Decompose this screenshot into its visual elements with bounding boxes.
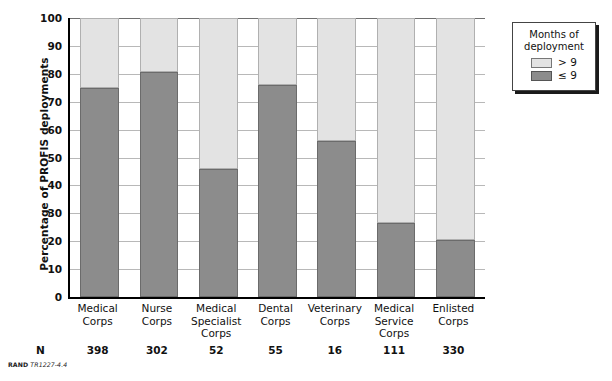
x-label-line: Corps <box>301 315 368 328</box>
x-label-line: Service <box>360 315 427 328</box>
x-label-veterinary-corps: VeterinaryCorps <box>301 302 368 327</box>
bar-segment-gt9 <box>258 18 297 85</box>
n-value-enlisted-corps: 330 <box>424 344 483 356</box>
x-label-line: Veterinary <box>301 302 368 315</box>
x-label-line: Medical <box>360 302 427 315</box>
bar-medical-specialist-corps[interactable] <box>199 18 238 297</box>
light-swatch-icon <box>531 58 552 68</box>
n-row-label: N <box>36 344 45 356</box>
x-label-line: Medical <box>64 302 131 315</box>
x-label-medical-specialist-corps: MedicalSpecialistCorps <box>183 302 250 340</box>
bar-segment-le9 <box>199 169 238 297</box>
y-tick-100: 100 <box>28 13 62 24</box>
x-label-line: Nurse <box>123 302 190 315</box>
x-label-line: Corps <box>123 315 190 328</box>
x-label-dental-corps: DentalCorps <box>242 302 309 327</box>
n-value-nurse-corps: 302 <box>127 344 186 356</box>
x-label-line: Corps <box>242 315 309 328</box>
bar-segment-le9 <box>317 141 356 297</box>
n-value-dental-corps: 55 <box>246 344 305 356</box>
bar-dental-corps[interactable] <box>258 18 297 297</box>
bar-nurse-corps[interactable] <box>140 18 179 297</box>
n-value-medical-specialist-corps: 52 <box>187 344 246 356</box>
bar-segment-gt9 <box>377 18 416 223</box>
legend-title-line-2: deployment <box>517 41 591 53</box>
legend-item-le9-label: ≤ 9 <box>558 70 577 81</box>
chart-figure: Percentage of PROFIS deployments 1009080… <box>0 0 612 381</box>
bar-segment-gt9 <box>80 18 119 88</box>
dark-swatch-icon <box>531 71 552 81</box>
x-label-line: Corps <box>64 315 131 328</box>
x-label-line: Dental <box>242 302 309 315</box>
x-label-line: Corps <box>360 327 427 340</box>
bar-medical-corps[interactable] <box>80 18 119 297</box>
legend-item-gt9-label: > 9 <box>558 57 577 68</box>
bar-enlisted-corps[interactable] <box>436 18 475 297</box>
source-document-id: TR1227-4.4 <box>30 361 67 368</box>
x-label-line: Medical <box>183 302 250 315</box>
bar-veterinary-corps[interactable] <box>317 18 356 297</box>
x-label-nurse-corps: NurseCorps <box>123 302 190 327</box>
bar-medical-service-corps[interactable] <box>377 18 416 297</box>
x-label-medical-corps: MedicalCorps <box>64 302 131 327</box>
bar-segment-le9 <box>80 88 119 297</box>
x-label-line: Enlisted <box>420 302 487 315</box>
n-value-medical-corps: 398 <box>68 344 127 356</box>
x-label-medical-service-corps: MedicalServiceCorps <box>360 302 427 340</box>
x-label-line: Corps <box>420 315 487 328</box>
x-label-enlisted-corps: EnlistedCorps <box>420 302 487 327</box>
bar-series-container <box>70 18 485 297</box>
bar-segment-le9 <box>258 85 297 297</box>
bar-segment-le9 <box>436 240 475 297</box>
source-note: RAND TR1227-4.4 <box>8 361 67 368</box>
legend-item-le9: ≤ 9 <box>517 70 591 81</box>
source-brand: RAND <box>8 361 28 368</box>
legend-title: Months of deployment <box>517 29 591 53</box>
n-value-medical-service-corps: 111 <box>364 344 423 356</box>
bar-segment-gt9 <box>436 18 475 240</box>
legend-item-gt9: > 9 <box>517 57 591 68</box>
bar-segment-gt9 <box>317 18 356 141</box>
bar-segment-gt9 <box>199 18 238 169</box>
bar-segment-le9 <box>377 223 416 297</box>
plot-area <box>68 18 485 299</box>
bar-segment-le9 <box>140 72 179 297</box>
legend: Months of deployment > 9 ≤ 9 <box>512 22 596 91</box>
bar-segment-gt9 <box>140 18 179 72</box>
legend-title-line-1: Months of <box>517 29 591 41</box>
n-value-veterinary-corps: 16 <box>305 344 364 356</box>
x-label-line: Specialist <box>183 315 250 328</box>
x-label-line: Corps <box>183 327 250 340</box>
y-axis-title: Percentage of PROFIS deployments <box>38 34 50 294</box>
